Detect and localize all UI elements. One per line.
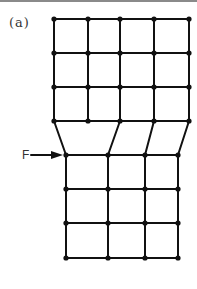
lattice-node bbox=[142, 152, 147, 157]
lattice-node bbox=[105, 255, 110, 260]
dislocation-bond bbox=[108, 121, 120, 155]
lattice-node bbox=[51, 16, 56, 21]
lattice-node bbox=[117, 118, 122, 123]
lattice-node bbox=[63, 255, 68, 260]
lattice-node bbox=[105, 152, 110, 157]
lattice-node bbox=[105, 220, 110, 225]
lattice-node bbox=[85, 50, 90, 55]
dislocation-bond bbox=[145, 121, 154, 155]
lattice-node bbox=[63, 186, 68, 191]
lattice-node bbox=[186, 118, 191, 123]
lattice-node bbox=[85, 118, 90, 123]
lattice-node bbox=[175, 186, 180, 191]
dislocation-bond bbox=[54, 121, 66, 155]
lattice-node bbox=[186, 84, 191, 89]
lattice-node bbox=[186, 50, 191, 55]
lattice-node bbox=[142, 186, 147, 191]
lattice-node bbox=[142, 255, 147, 260]
lattice-node bbox=[63, 152, 68, 157]
lattice-node bbox=[51, 84, 56, 89]
lattice-node bbox=[186, 16, 191, 21]
lattice-node bbox=[151, 118, 156, 123]
lattice-node bbox=[151, 50, 156, 55]
lattice-node bbox=[51, 118, 56, 123]
lattice-node bbox=[142, 220, 147, 225]
lattice-node bbox=[151, 16, 156, 21]
dislocation-bond bbox=[178, 121, 189, 155]
lattice-node bbox=[51, 50, 56, 55]
lattice-node bbox=[151, 84, 156, 89]
lattice-diagram bbox=[0, 0, 197, 289]
lattice-node bbox=[85, 84, 90, 89]
lattice-node bbox=[175, 152, 180, 157]
lattice-node bbox=[117, 50, 122, 55]
lattice-node bbox=[85, 16, 90, 21]
lattice-node bbox=[175, 255, 180, 260]
lattice-node bbox=[117, 84, 122, 89]
lattice-node bbox=[117, 16, 122, 21]
lattice-node bbox=[63, 220, 68, 225]
force-arrow-icon bbox=[51, 151, 63, 159]
lattice-node bbox=[175, 220, 180, 225]
lattice-node bbox=[105, 186, 110, 191]
